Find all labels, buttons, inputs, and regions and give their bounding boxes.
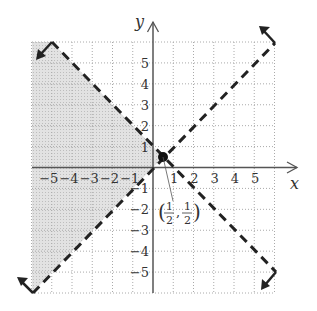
y-tick-label: 5 <box>141 56 149 71</box>
svg-text:2: 2 <box>184 214 191 227</box>
coordinate-plane: −5−4−3−2−112345 54321−1−2−3−4−5 y x ( 1 … <box>0 0 317 311</box>
x-axis-label: x <box>290 174 299 193</box>
x-tick-label: 3 <box>211 171 219 186</box>
y-tick-label: 4 <box>141 77 149 92</box>
y-tick-label: 3 <box>141 98 149 113</box>
svg-text:1: 1 <box>184 200 191 213</box>
y-tick-label: −3 <box>130 223 149 238</box>
y-axis-label: y <box>134 12 145 31</box>
point-label: ( 1 2 , 1 2 ) <box>158 200 201 227</box>
x-tick-label: −3 <box>80 171 99 186</box>
svg-text:2: 2 <box>166 214 173 227</box>
y-tick-label: −4 <box>130 244 149 259</box>
arrow-end-bottom-right-icon <box>265 272 276 285</box>
x-tick-label: 4 <box>231 171 239 186</box>
y-tick-label: −5 <box>130 265 149 280</box>
y-tick-label: −2 <box>130 202 149 217</box>
svg-text:,: , <box>176 204 180 219</box>
x-tick-label: −5 <box>39 171 58 186</box>
y-tick-label: 1 <box>141 140 149 155</box>
x-tick-label: 1 <box>170 171 178 186</box>
y-tick-label: −1 <box>130 181 149 196</box>
svg-text:1: 1 <box>166 200 173 213</box>
x-tick-label: 2 <box>190 171 198 186</box>
svg-text:(: ( <box>158 200 166 224</box>
x-tick-label: −4 <box>59 171 78 186</box>
x-tick-label: −2 <box>100 171 119 186</box>
y-tick-label: 2 <box>141 119 149 134</box>
arrowhead-top-right-icon <box>259 26 270 35</box>
x-tick-label: 5 <box>251 171 259 186</box>
svg-text:): ) <box>193 200 201 224</box>
